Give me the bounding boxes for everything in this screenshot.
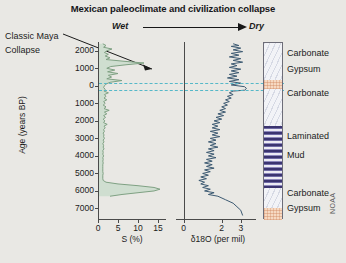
lithology-label-6: Gypsum bbox=[287, 203, 321, 214]
noaa-watermark: NOAA bbox=[329, 193, 336, 214]
y-axis-tickmark-9 bbox=[95, 208, 99, 209]
oxygen-isotope-record-xtick-2: 3 bbox=[232, 224, 250, 233]
lithology-label-4: Mud bbox=[287, 150, 305, 161]
y-axis-tickmark-2 bbox=[95, 86, 99, 87]
lithology-label-2: Carbonate bbox=[287, 88, 329, 99]
lithology-label-3: Laminated bbox=[287, 131, 329, 142]
correlation-line-0 bbox=[99, 83, 284, 84]
core-lithology-column bbox=[263, 42, 283, 219]
y-axis-tickmark-4 bbox=[95, 121, 99, 122]
y-axis-tickmark-6 bbox=[95, 156, 99, 157]
correlation-line-1 bbox=[99, 90, 284, 91]
lithology-unit-laminated-mud-3 bbox=[264, 126, 282, 187]
y-axis-tickmark-0 bbox=[95, 51, 99, 52]
y-axis-tickmark-7 bbox=[95, 173, 99, 174]
lithology-unit-carbonate-0 bbox=[264, 43, 282, 80]
lithology-unit-gypsum-6 bbox=[264, 208, 282, 220]
oxygen-isotope-record-xtickmark-0 bbox=[184, 219, 185, 223]
isotope-axis-title: δ18O (per mil) bbox=[176, 234, 260, 244]
y-axis-tickmark-8 bbox=[95, 191, 99, 192]
lithology-label-5: Carbonate bbox=[287, 188, 329, 199]
y-axis-tickmark-5 bbox=[95, 138, 99, 139]
y-axis-tickmark-1 bbox=[95, 68, 99, 69]
y-axis-tickmark-3 bbox=[95, 103, 99, 104]
lithology-label-0: Carbonate bbox=[287, 48, 329, 59]
lithology-unit-carbonate-5 bbox=[264, 188, 282, 208]
figure-root: Mexican paleoclimate and civilization co… bbox=[0, 0, 346, 263]
lithology-unit-gypsum-1 bbox=[264, 80, 282, 90]
lithology-label-1: Gypsum bbox=[287, 64, 321, 75]
oxygen-isotope-record-xtickmark-2 bbox=[241, 219, 242, 223]
lithology-unit-carbonate-2 bbox=[264, 89, 282, 126]
oxygen-isotope-record-xtickmark-1 bbox=[222, 219, 223, 223]
oxygen-isotope-record-xtick-0: 0 bbox=[175, 224, 193, 233]
oxygen-isotope-record-xtick-1: 2 bbox=[213, 224, 231, 233]
